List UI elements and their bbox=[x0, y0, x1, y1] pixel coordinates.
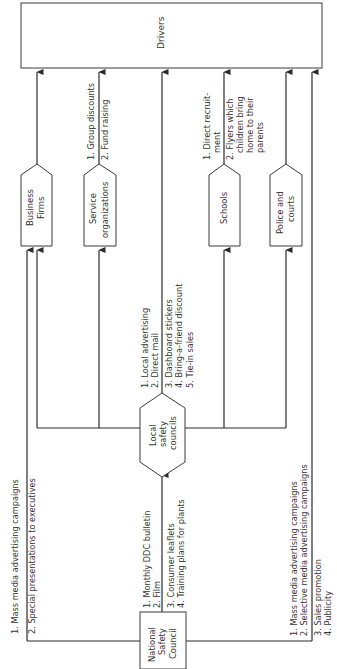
nsc-drivers-item-2: 2. Selective media advertising campaigns bbox=[299, 464, 309, 636]
business-firms-box: Business Firms bbox=[21, 164, 52, 246]
nsc-label-2: Safety bbox=[157, 628, 167, 655]
nsc-local-item-1: 1. Monthly DDC bulletin bbox=[142, 511, 152, 608]
police-label-2: courts bbox=[286, 196, 296, 222]
nsc-local-labels: 1. Monthly DDC bulletin 2. Film 3. Consu… bbox=[142, 499, 186, 608]
nsc-business-item-2: 2. Special presentations to executives bbox=[27, 478, 37, 634]
nsc-drivers-item-1: 1. Mass media advertising campaigns bbox=[289, 481, 299, 636]
police-label-1: Police and bbox=[275, 191, 285, 234]
business-label-1: Business bbox=[25, 189, 35, 226]
service-organizations-box: Service organizations bbox=[84, 164, 116, 246]
schools-item-2d: parents bbox=[255, 122, 265, 153]
local-item-5: 5. Tie-in sales bbox=[185, 332, 195, 388]
schools-item-2b: children bring bbox=[235, 96, 245, 153]
nsc-local-item-4: 4. Training plans for plants bbox=[176, 499, 186, 608]
service-channel-labels: 1. Group discounts 2. Fund raising bbox=[86, 83, 110, 160]
schools-label: Schools bbox=[219, 192, 229, 224]
nsc-business-item-1: 1. Mass media advertising campaigns bbox=[10, 479, 20, 634]
nsc-label-1: National bbox=[147, 627, 157, 662]
nsc-drivers-item-4: 4. Publicity bbox=[323, 591, 333, 636]
nsc-business-labels: 1. Mass media advertising campaigns 2. S… bbox=[10, 478, 37, 634]
nsc-label-3: Council bbox=[168, 628, 178, 659]
service-item-1: 1. Group discounts bbox=[86, 83, 96, 160]
service-label-2: organizations bbox=[100, 182, 110, 238]
hub-label-2: safety bbox=[158, 421, 168, 447]
schools-box: Schools bbox=[209, 164, 240, 246]
channel-diagram: Drivers Business Firms Service organizat… bbox=[0, 0, 337, 669]
hub-label-3: councils bbox=[168, 416, 178, 450]
police-courts-box: Police and courts bbox=[270, 164, 302, 246]
drivers-label: Drivers bbox=[156, 16, 166, 49]
service-label-1: Service bbox=[88, 193, 98, 224]
nsc-drivers-item-3: 3. Sales promotion bbox=[313, 559, 323, 636]
local-item-4: 4. Bring-a-friend discount bbox=[174, 283, 184, 388]
schools-item-2c: home to their bbox=[245, 97, 255, 153]
nsc-drivers-labels: 1. Mass media advertising campaigns 2. S… bbox=[289, 464, 333, 636]
schools-channel-labels: 1. Direct recruit- ment 2. Flyers which … bbox=[202, 93, 265, 160]
local-safety-councils-hub: Local safety councils bbox=[140, 393, 185, 477]
service-item-2: 2. Fund raising bbox=[100, 100, 110, 160]
local-item-2: 2. Direct mail bbox=[150, 333, 160, 388]
business-label-2: Firms bbox=[36, 197, 46, 219]
local-channel-labels-b: 3. Dashboard stickers 4. Bring-a-friend … bbox=[164, 283, 195, 388]
nsc-local-item-2: 2. Film bbox=[152, 581, 162, 608]
local-item-1: 1. Local advertising bbox=[140, 308, 150, 388]
local-channel-labels-a: 1. Local advertising 2. Direct mail bbox=[140, 308, 160, 388]
nsc-local-item-3: 3. Consumer leaflets bbox=[166, 523, 176, 608]
hub-label-1: Local bbox=[148, 424, 158, 446]
schools-item-2a: 2. Flyers which bbox=[225, 99, 235, 160]
schools-item-1b: ment bbox=[212, 131, 222, 153]
schools-item-1a: 1. Direct recruit- bbox=[202, 93, 212, 160]
drivers-box: Drivers bbox=[21, 3, 322, 68]
local-item-3: 3. Dashboard stickers bbox=[164, 299, 174, 388]
national-safety-council-box: National Safety Council bbox=[140, 612, 186, 669]
